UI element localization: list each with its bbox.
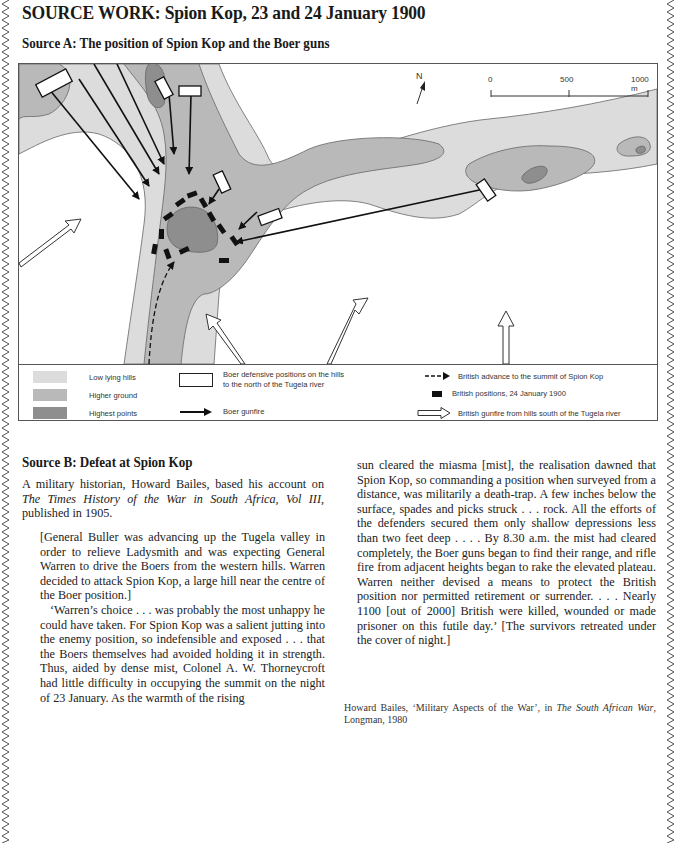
north-arrow-icon (417, 81, 425, 104)
low-lying-hills (19, 64, 657, 364)
scale-tick-1000: 1000 m (631, 75, 657, 93)
legend-british-gunfire: British gunfire from hills south of the … (417, 407, 621, 419)
zigzag-border-left (0, 0, 12, 843)
map-terrain (19, 64, 657, 364)
boer-position-symbol-icon (179, 373, 213, 387)
quote-paragraph-1: [General Buller was advancing up the Tug… (40, 530, 325, 603)
spion-kop-map: N 0 500 1000 m Low lying hills Higher gr… (18, 63, 658, 421)
british-advance-dashed-arrow-icon (425, 371, 451, 381)
legend-higher-ground: Higher ground (33, 389, 137, 401)
source-a-title: Source A: The position of Spion Kop and … (22, 35, 329, 52)
legend-low-lying-hills: Low lying hills (33, 371, 136, 383)
north-label: N (416, 71, 423, 81)
swatch-higher-ground (33, 389, 67, 401)
swatch-highest-points (33, 407, 67, 419)
zigzag-border-right (665, 0, 677, 843)
scale-tick-500: 500 (560, 75, 573, 84)
british-gunfire-hollow-arrow-icon (417, 407, 451, 419)
legend-highest-points: Highest points (33, 407, 137, 419)
quote-column-left: [General Buller was advancing up the Tug… (40, 530, 325, 705)
scale-tick-0: 0 (488, 75, 492, 84)
source-b-intro: A military historian, Howard Bailes, bas… (22, 477, 324, 521)
quote-paragraph-2: ‘Warren’s choice . . . was probably the … (40, 603, 325, 705)
legend-british-positions: British positions, 24 January 1900 (432, 389, 566, 398)
source-b-citation: Howard Bailes, ‘Military Aspects of the … (344, 702, 656, 725)
scale-bar (491, 90, 648, 97)
swatch-low-lying-hills (33, 371, 67, 383)
quote-column-right: sun cleared the miasma [mist], the reali… (357, 458, 656, 648)
map-legend: Low lying hills Higher ground Highest po… (19, 364, 657, 421)
british-position-symbol-icon (432, 391, 442, 397)
legend-boer-positions: Boer defensive positions on the hills to… (179, 370, 344, 390)
book-title: The Times History of the War in South Af… (22, 492, 321, 506)
page-title: SOURCE WORK: Spion Kop, 23 and 24 Januar… (22, 2, 425, 24)
british-gunfire-arrows (19, 219, 514, 364)
quote-paragraph-3: sun cleared the miasma [mist], the reali… (357, 458, 656, 648)
source-b-title: Source B: Defeat at Spion Kop (22, 454, 193, 471)
legend-boer-gunfire: Boer gunfire (179, 407, 264, 417)
legend-british-advance: British advance to the summit of Spion K… (425, 371, 603, 381)
boer-gunfire-arrow-icon (179, 407, 213, 417)
